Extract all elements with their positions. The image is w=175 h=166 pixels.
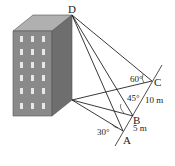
point-label-D: D — [68, 3, 76, 15]
point-label-A: A — [123, 134, 131, 146]
point-label-C: C — [154, 76, 161, 88]
angle-label-C: 60° — [130, 74, 143, 84]
building-side-face — [52, 15, 72, 116]
angle-arc-B — [120, 104, 124, 113]
angle-label-B: 45° — [127, 93, 140, 103]
diagram-canvas: D C B A 60° 45° 30° 10 m 5 m — [0, 0, 175, 166]
length-label-AB: 5 m — [133, 123, 147, 133]
angle-label-A: 30° — [97, 127, 110, 137]
building — [13, 15, 72, 116]
length-label-BC: 10 m — [145, 95, 163, 105]
